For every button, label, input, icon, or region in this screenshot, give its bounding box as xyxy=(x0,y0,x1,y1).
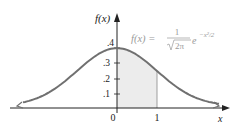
x-axis-label: x xyxy=(217,113,223,124)
y-tick-label: .3 xyxy=(103,58,110,68)
formula-lhs: f(x) = xyxy=(131,33,155,45)
formula-numerator: 1 xyxy=(175,27,180,37)
y-tick-label: .2 xyxy=(103,74,110,84)
x-tick-label: 1 xyxy=(155,112,160,123)
y-tick-label: .4 xyxy=(107,38,114,48)
formula-denominator: 2π xyxy=(175,41,185,51)
formula-annotation: f(x) = 1 2π e −x²/2 xyxy=(131,27,215,51)
curve-left-arrow-icon xyxy=(17,102,23,108)
y-tick-label: .1 xyxy=(103,89,110,99)
formula-exponent: −x²/2 xyxy=(199,31,215,39)
y-axis-label: f(x) xyxy=(95,12,111,25)
normal-distribution-chart: .1 .2 .3 .4 0 1 x f(x) f(x) = 1 2π e −x²… xyxy=(0,0,238,134)
y-axis-arrow-icon xyxy=(114,13,120,22)
x-tick-label: 0 xyxy=(111,112,116,123)
formula-exp-base: e xyxy=(192,35,197,46)
shaded-area-0-to-1 xyxy=(117,48,157,108)
chart-canvas: .1 .2 .3 .4 0 1 x f(x) f(x) = 1 2π e −x²… xyxy=(0,0,238,134)
x-axis-arrow-icon xyxy=(222,105,230,111)
